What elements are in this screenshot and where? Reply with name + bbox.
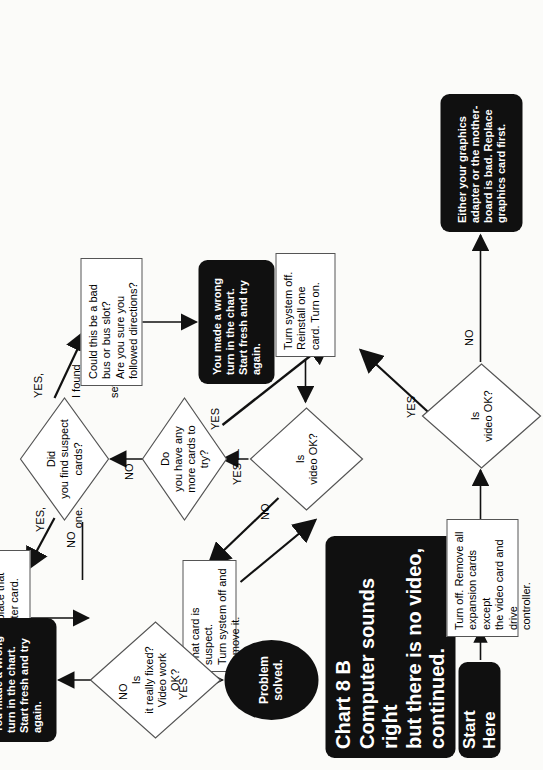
really-fixed-line1: Is: [129, 646, 142, 713]
decision-is-video-ok-1[interactable]: Is video OK?: [420, 362, 542, 470]
edge-label-reallyfixed-yes: YES: [176, 678, 189, 700]
problem-solved-line2: solved.: [271, 656, 285, 704]
wrong-turn-2-line1: You made a wrong: [210, 278, 223, 375]
decision-is-video-ok-2[interactable]: Is video OK?: [248, 406, 364, 512]
find-suspect-line1: Did: [44, 419, 57, 499]
bad-graphics-line2: adapter or the mother-: [468, 106, 481, 223]
edge-label-video2-no: NO: [258, 504, 271, 521]
node-start-here[interactable]: Start Here: [458, 662, 500, 758]
node-start-here-label: Start Here: [459, 671, 499, 749]
node-bad-bus-or-slot[interactable]: Could this be a bad bus or bus slot? Are…: [80, 258, 142, 386]
more-cards-line1: Do: [158, 425, 171, 492]
chart-title-line4: continued.: [425, 545, 449, 749]
edge-label-video1-no: NO: [462, 330, 475, 347]
bad-graphics-line3: board is bad. Replace: [481, 106, 494, 223]
yes-several-line1: YES,: [31, 359, 44, 398]
is-video-ok-2-line2: video OK?: [306, 433, 319, 484]
node-remove-expansion-cards[interactable]: Turn off. Remove all expansion cards exc…: [446, 519, 518, 637]
remove-cards-line1: Turn off. Remove all: [452, 526, 465, 630]
edge-label-findsuspect-no: NO: [64, 532, 77, 549]
wrong-turn-1-line3: Start fresh and try: [17, 636, 30, 733]
node-wrong-turn-2: You made a wrong turn in the chart. Star…: [198, 260, 274, 384]
wrong-turn-1-line1: You made a wrong: [0, 636, 4, 733]
chart-title-block: Chart 8 B Computer sounds right but ther…: [325, 536, 455, 758]
find-suspect-line2: you find suspect: [57, 419, 70, 499]
chart-title-line2: Computer sounds right: [355, 545, 402, 749]
chart-title-line3: but there is no video,: [402, 545, 426, 749]
chart-title-line1: Chart 8 B: [331, 545, 355, 749]
reinstall-line2: Reinstall one: [294, 272, 307, 350]
remove-cards-line2: expansion cards except: [465, 526, 492, 630]
edge-label-findsuspect-yes-one: YES, one.: [8, 507, 109, 532]
edge-label-morecards-no: NO: [122, 464, 135, 481]
wrong-turn-2-line4: again.: [249, 278, 262, 375]
really-fixed-line2: it really fixed?: [142, 646, 155, 713]
edge-label-video2-yes: YES —: [230, 449, 243, 485]
node-problem-solved: Problem solved.: [224, 640, 318, 720]
is-video-ok-1-line1: Is: [468, 390, 481, 441]
decision-is-it-really-fixed[interactable]: Is it really fixed? Video work OK?: [88, 620, 222, 740]
decision-find-suspect-cards[interactable]: Did you find suspect cards?: [18, 396, 110, 522]
yes-one-line1: YES,: [33, 507, 46, 532]
wrong-turn-1-line2: turn in the chart.: [4, 636, 17, 733]
bad-graphics-line1: Either your graphics: [455, 106, 468, 223]
edge-label-morecards-yes: YES: [208, 408, 221, 430]
bad-bus-line4: followed directions?: [126, 282, 139, 379]
reinstall-line1: Turn system off.: [281, 272, 294, 350]
node-wrong-turn-1: You made a wrong turn in the chart. Star…: [0, 618, 56, 742]
bad-graphics-line4: graphics card first.: [494, 106, 507, 223]
wrong-turn-2-line2: turn in the chart.: [223, 278, 236, 375]
is-video-ok-2-line1: Is: [293, 433, 306, 484]
more-cards-line4: try?: [197, 425, 210, 492]
wrong-turn-2-line3: Start fresh and try: [236, 278, 249, 375]
problem-solved-line1: Problem: [257, 656, 271, 704]
yes-one-line2: one.: [71, 507, 84, 532]
remove-cards-line4: controller.: [519, 526, 532, 630]
more-cards-line3: more cards to: [184, 425, 197, 492]
bad-bus-line3: Are you sure you: [113, 282, 126, 379]
really-fixed-line3: Video work: [155, 646, 168, 713]
flowchart-canvas: Chart 8 B Computer sounds right but ther…: [0, 0, 543, 770]
node-reinstall-one-card[interactable]: Turn system off. Reinstall one card. Tur…: [275, 253, 335, 357]
wrong-turn-1-line4: again.: [30, 636, 43, 733]
edge-label-reallyfixed-no: NO: [116, 684, 129, 701]
more-cards-line2: you have any: [171, 425, 184, 492]
find-suspect-line3: cards?: [71, 419, 84, 499]
is-video-ok-1-line2: video OK?: [481, 390, 494, 441]
bad-bus-line2: bus or bus slot?: [99, 282, 112, 379]
remove-cards-line3: the video card and drive: [492, 526, 519, 630]
reinstall-line3: card. Turn on.: [308, 272, 321, 350]
edge-label-video1-yes: YES: [404, 396, 417, 418]
bad-bus-line1: Could this be a bad: [86, 282, 99, 379]
node-bad-graphics-or-motherboard: Either your graphics adapter or the moth…: [440, 94, 522, 232]
